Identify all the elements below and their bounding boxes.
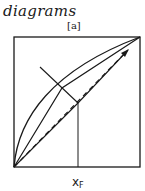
diagonal-dashed-line [14,52,126,167]
x-axis-label: xF [72,176,84,190]
mccabe-thiele-diagram [0,0,145,191]
x-axis-label-subscript: F [79,181,84,190]
